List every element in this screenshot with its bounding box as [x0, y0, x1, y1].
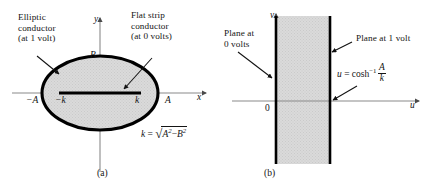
- panel-a-marker-minus-k: −k: [55, 95, 66, 105]
- panel-a-formula: k = √A2−B2: [141, 126, 187, 142]
- formula-cosh: cosh: [352, 69, 369, 79]
- panel-b-caption: (b): [264, 168, 275, 178]
- formula-u-lhs: u: [337, 69, 342, 79]
- formula-fraction-denominator: k: [378, 74, 386, 84]
- plane-at-0-volts-leader: [238, 52, 272, 78]
- formula-k-lhs: k: [141, 129, 145, 139]
- formula-cosh-exponent: −1: [369, 67, 376, 74]
- panel-a-marker-k: k: [135, 95, 139, 105]
- figure-container: Ellipticconductor(at 1 volt) Flat stripc…: [0, 0, 429, 191]
- panel-a-caption: (a): [97, 168, 108, 178]
- flat-strip-conductor-label: Flat stripconductor(at 0 volts): [131, 10, 172, 42]
- plane-at-1-volt-leader: [332, 42, 352, 52]
- formula-radicand-B-exp: 2: [183, 127, 186, 134]
- field-region-band: [276, 16, 330, 164]
- panel-a-marker-minus-A: −A: [26, 95, 38, 105]
- panel-a-marker-B: B: [90, 50, 96, 60]
- elliptic-conductor-leader: [37, 56, 59, 74]
- plane-at-1-volt-label: Plane at 1 volt: [356, 33, 410, 44]
- panel-b-v-axis-label: v: [270, 10, 274, 20]
- formula-radicand: A2−B2: [161, 126, 187, 139]
- formula-u-equals: =: [344, 69, 349, 79]
- plane-at-0-volts-label: Plane at0 volts: [224, 28, 254, 49]
- formula-k-equals: =: [148, 129, 153, 139]
- panel-b-u-axis-label: u: [410, 100, 415, 110]
- panel-b-formula: u = cosh−1Ak: [337, 63, 386, 84]
- panel-b-origin-label: 0: [265, 103, 270, 113]
- panel-a-marker-A: A: [165, 95, 171, 105]
- elliptic-conductor-label: Ellipticconductor(at 1 volt): [18, 12, 56, 44]
- panel-a-x-axis-label: x: [197, 92, 201, 102]
- u-value-leader: [333, 86, 357, 100]
- formula-A-over-k: Ak: [378, 63, 386, 84]
- panel-a-y-axis-label: y: [94, 14, 98, 24]
